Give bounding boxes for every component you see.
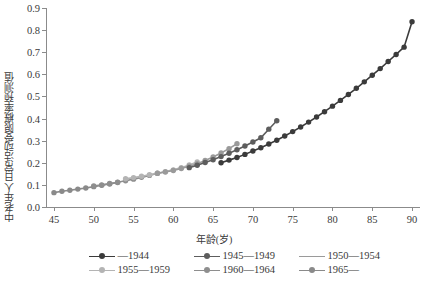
data-point	[115, 180, 120, 185]
data-point	[163, 169, 168, 174]
legend-item-label: 1945—1949	[223, 251, 276, 262]
x-tick-mark	[213, 207, 214, 211]
data-point	[266, 126, 271, 131]
legend-line-icon	[299, 256, 325, 258]
data-point	[354, 86, 359, 91]
data-point	[147, 172, 152, 177]
legend-marker-icon	[309, 267, 315, 273]
legend-item-label: 1965—	[328, 265, 360, 276]
legend-item[interactable]: 1965—	[299, 263, 404, 277]
data-point	[83, 185, 88, 190]
x-tick-label: 70	[248, 214, 259, 225]
data-point	[242, 152, 247, 157]
data-point	[59, 189, 64, 194]
data-point	[250, 148, 255, 153]
data-point	[409, 19, 414, 24]
data-point	[123, 176, 128, 181]
series-line	[221, 22, 412, 163]
data-point	[107, 181, 112, 186]
data-point	[234, 147, 239, 152]
x-tick-label: 90	[407, 214, 418, 225]
data-point	[378, 66, 383, 71]
data-point	[385, 59, 390, 64]
series-line	[189, 121, 277, 168]
chart-legend: —19441945—19491950—19541955—19591960—196…	[0, 249, 428, 277]
legend-item[interactable]: 1960—1964	[194, 263, 299, 277]
data-point	[234, 141, 239, 146]
y-tick-label: 0.2	[27, 157, 40, 168]
x-tick-mark	[173, 207, 174, 211]
y-tick-label: 0.8	[27, 25, 40, 36]
series-line	[157, 144, 237, 174]
x-tick-label: 65	[208, 214, 219, 225]
x-tick-label: 55	[128, 214, 139, 225]
y-tick-label: 0.9	[27, 3, 40, 14]
legend-swatch-icon	[89, 252, 115, 261]
legend-swatch-icon	[194, 252, 220, 261]
data-point	[250, 139, 255, 144]
data-point	[298, 124, 303, 129]
data-point	[202, 160, 207, 165]
plot-area: 0.00.10.20.30.40.50.60.70.80.9 455055606…	[46, 8, 420, 207]
data-point	[393, 52, 398, 57]
x-tick-label: 50	[88, 214, 99, 225]
data-point	[218, 160, 223, 165]
series-plot	[46, 8, 420, 207]
data-point	[258, 135, 263, 140]
x-tick-mark	[54, 207, 55, 211]
data-point	[266, 141, 271, 146]
data-point	[362, 79, 367, 84]
data-point	[155, 171, 160, 176]
data-point	[226, 151, 231, 156]
data-point	[330, 103, 335, 108]
data-point	[131, 175, 136, 180]
legend-item[interactable]: 1955—1959	[89, 263, 194, 277]
legend-marker-icon	[99, 267, 105, 273]
data-point	[274, 118, 279, 123]
data-point	[401, 44, 406, 49]
data-point	[91, 183, 96, 188]
y-tick-label: 0.5	[27, 91, 40, 102]
legend-swatch-icon	[194, 266, 220, 275]
legend-item[interactable]: —1944	[89, 249, 194, 263]
data-point	[234, 155, 239, 160]
data-point	[282, 133, 287, 138]
legend-item[interactable]: 1945—1949	[194, 249, 299, 263]
data-point	[139, 174, 144, 179]
y-tick-label: 0.4	[27, 113, 40, 124]
x-tick-label: 60	[168, 214, 179, 225]
data-point	[370, 73, 375, 78]
data-point	[226, 146, 231, 151]
legend-item-label: —1944	[118, 251, 150, 262]
x-tick-mark	[293, 207, 294, 211]
legend-swatch-icon	[299, 266, 325, 275]
data-point	[274, 138, 279, 143]
series-1955—1959	[123, 159, 200, 181]
legend-swatch-icon	[299, 252, 325, 261]
legend-item-label: 1955—1959	[118, 265, 171, 276]
x-tick-mark	[253, 207, 254, 211]
y-tick-mark	[42, 207, 46, 208]
data-point	[306, 119, 311, 124]
legend-item[interactable]: 1950—1954	[299, 249, 404, 263]
data-point	[75, 186, 80, 191]
data-point	[179, 166, 184, 171]
legend-marker-icon	[204, 267, 210, 273]
x-tick-mark	[372, 207, 373, 211]
data-point	[194, 163, 199, 168]
data-point	[51, 190, 56, 195]
x-tick-label: 45	[49, 214, 60, 225]
y-tick-label: 0.0	[27, 202, 40, 213]
legend-swatch-icon	[89, 266, 115, 275]
data-point	[314, 114, 319, 119]
data-point	[322, 109, 327, 114]
x-tick-mark	[332, 207, 333, 211]
data-point	[210, 157, 215, 162]
y-tick-label: 0.7	[27, 47, 40, 58]
series-line	[126, 162, 198, 179]
data-point	[290, 129, 295, 134]
x-tick-label: 80	[327, 214, 338, 225]
data-point	[187, 165, 192, 170]
data-point	[258, 145, 263, 150]
data-point	[226, 157, 231, 162]
